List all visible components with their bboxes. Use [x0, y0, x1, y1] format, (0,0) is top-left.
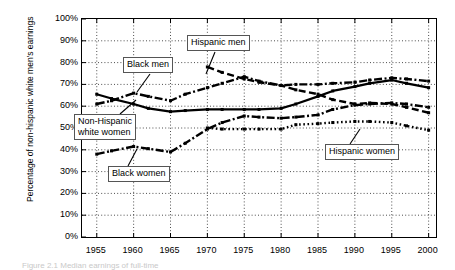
figure-container: Percentage of non-hispanic white men's e… — [0, 0, 455, 270]
x-tick-label: 1990 — [334, 246, 374, 255]
y-tick-label: 10% — [44, 210, 78, 219]
y-tick-label: 20% — [44, 188, 78, 197]
y-tick-label: 30% — [44, 167, 78, 176]
y-axis-tick-labels: 0%10%20%30%40%50%60%70%80%90%100% — [40, 0, 78, 270]
y-tick-label: 90% — [44, 36, 78, 45]
annotation-hispanic-women: Hispanic women — [325, 144, 399, 160]
y-tick-label: 70% — [44, 79, 78, 88]
annotation-hispanic-men: Hispanic men — [187, 35, 250, 51]
x-tick-label: 1965 — [150, 246, 190, 255]
x-axis-tick-labels: 1955196019651970197519801985199019952000 — [0, 240, 455, 260]
x-tick-label: 1955 — [76, 246, 116, 255]
x-tick-label: 1985 — [297, 246, 337, 255]
y-axis-title: Percentage of non-hispanic white men's e… — [25, 9, 36, 209]
annotation-black-men: Black men — [123, 57, 173, 73]
y-tick-label: 100% — [44, 14, 78, 23]
x-tick-label: 1960 — [113, 246, 153, 255]
annotation-nonhispanic-white-women: Non-Hispanic white women — [74, 114, 136, 140]
x-tick-label: 2000 — [408, 246, 448, 255]
y-tick-label: 40% — [44, 145, 78, 154]
figure-caption: Figure 2.1 Median earnings of full-time — [22, 261, 159, 270]
y-tick-label: 50% — [44, 123, 78, 132]
x-tick-label: 1980 — [260, 246, 300, 255]
x-tick-label: 1975 — [223, 246, 263, 255]
annotation-black-women: Black women — [108, 166, 170, 182]
x-tick-label: 1995 — [371, 246, 411, 255]
y-tick-label: 80% — [44, 58, 78, 67]
x-tick-label: 1970 — [186, 246, 226, 255]
y-tick-label: 60% — [44, 101, 78, 110]
